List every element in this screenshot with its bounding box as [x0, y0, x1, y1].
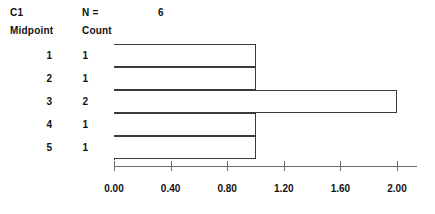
midpoint-value: 4: [18, 113, 52, 136]
count-value: 2: [70, 90, 88, 113]
axis-tick: [284, 161, 285, 171]
axis-tick: [397, 161, 398, 171]
sample-size-value: 6: [158, 7, 164, 18]
axis-tick: [171, 161, 172, 171]
axis-tick-label: 0.00: [94, 183, 134, 194]
column-name-label: C1: [10, 7, 23, 18]
histogram-bar: [114, 136, 256, 159]
axis-tick: [227, 161, 228, 171]
axis-tick: [340, 161, 341, 171]
plot-area: [114, 44, 435, 166]
x-axis-line: [114, 166, 417, 167]
axis-tick-label: 1.60: [320, 183, 360, 194]
histogram-bar: [114, 113, 256, 136]
histogram-output: C1 N = 6 Midpoint Count 12345 11211 0.00…: [0, 0, 435, 214]
count-value: 1: [70, 113, 88, 136]
count-column-header: Count: [82, 25, 112, 36]
count-value: 1: [70, 136, 88, 159]
midpoint-value: 2: [18, 67, 52, 90]
axis-tick-label: 0.80: [207, 183, 247, 194]
histogram-bar: [114, 44, 256, 67]
midpoint-column-header: Midpoint: [10, 25, 53, 36]
axis-tick: [114, 161, 115, 171]
histogram-bar: [114, 90, 397, 113]
axis-tick-label: 0.40: [151, 183, 191, 194]
sample-size-label: N =: [82, 7, 98, 18]
axis-tick-label: 2.00: [377, 183, 417, 194]
midpoint-value: 1: [18, 44, 52, 67]
count-value: 1: [70, 67, 88, 90]
axis-tick-label: 1.20: [264, 183, 304, 194]
midpoint-value: 5: [18, 136, 52, 159]
count-value: 1: [70, 44, 88, 67]
midpoint-value: 3: [18, 90, 52, 113]
histogram-bar: [114, 67, 256, 90]
